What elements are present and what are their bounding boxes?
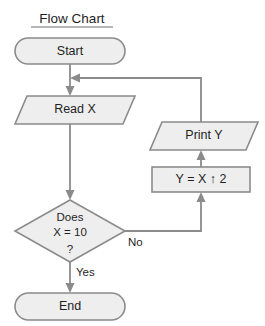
- node-compute-y-label: Y = X ↑ 2: [176, 172, 227, 186]
- edge-print-y-loopback-arrowhead: [70, 74, 80, 83]
- node-read-x[interactable]: Read X: [15, 96, 135, 124]
- node-compute-y[interactable]: Y = X ↑ 2: [152, 167, 250, 192]
- edge-label-no: No: [128, 236, 143, 248]
- node-start-label: Start: [57, 44, 84, 58]
- edge-start-to-read-x-arrowhead: [66, 86, 75, 96]
- diagram-title: Flow Chart: [39, 11, 105, 26]
- node-decision-label-line2: X = 10: [53, 226, 87, 238]
- edge-decision-no-path: [125, 200, 201, 231]
- node-start[interactable]: Start: [15, 38, 125, 64]
- edge-compute-y-to-print-y-arrowhead: [197, 150, 206, 160]
- edge-read-x-to-decision: [66, 124, 75, 200]
- flowchart-canvas: Flow Chart Yes No: [0, 0, 265, 326]
- edge-compute-y-to-print-y: [197, 150, 206, 167]
- edge-decision-no-arrowhead: [197, 192, 206, 202]
- node-print-y[interactable]: Print Y: [150, 122, 258, 150]
- diagram-title-group: Flow Chart: [31, 11, 113, 27]
- edge-read-x-to-decision-arrowhead: [66, 190, 75, 200]
- edge-label-yes: Yes: [76, 266, 95, 278]
- edge-start-to-read-x: [66, 64, 75, 96]
- node-print-y-label: Print Y: [185, 128, 223, 142]
- node-decision[interactable]: Does X = 10 ?: [15, 200, 125, 262]
- edge-decision-yes-to-end: Yes: [66, 262, 96, 293]
- flowchart-diagram: Flow Chart Yes No: [0, 0, 265, 326]
- edge-decision-yes-arrowhead: [66, 283, 75, 293]
- edge-decision-no-to-compute-y: No: [125, 192, 206, 248]
- node-end[interactable]: End: [15, 293, 125, 320]
- node-decision-label-line1: Does: [57, 211, 84, 223]
- node-decision-label-line3: ?: [67, 243, 73, 255]
- node-end-label: End: [59, 299, 81, 313]
- node-read-x-label: Read X: [54, 102, 96, 116]
